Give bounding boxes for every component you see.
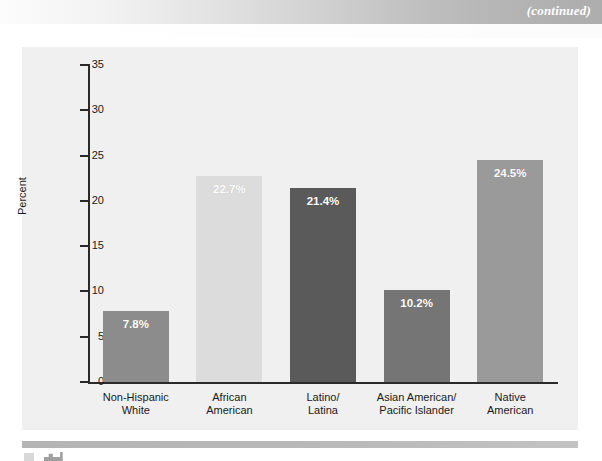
category-label: NativeAmerican — [463, 391, 557, 417]
continued-note: (continued) — [527, 3, 591, 19]
category-label: AfricanAmerican — [183, 391, 277, 417]
bar[interactable]: 22.7% — [196, 176, 262, 382]
bar[interactable]: 10.2% — [384, 290, 450, 382]
bar-value-label: 7.8% — [103, 318, 169, 330]
category-label-line: African — [183, 391, 277, 404]
category-label: Asian American/Pacific Islander — [370, 391, 464, 417]
bar[interactable]: 21.4% — [290, 188, 356, 382]
category-label-line: Latina — [276, 404, 370, 417]
category-label-line: Latino/ — [276, 391, 370, 404]
category-label-line: Non-Hispanic — [89, 391, 183, 404]
plot-area: 7.8%22.7%21.4%10.2%24.5% — [89, 65, 557, 382]
bar-value-label: 22.7% — [196, 183, 262, 195]
footer-partial-glyph-icon — [44, 452, 70, 461]
page-header-band — [0, 0, 602, 24]
category-label-line: White — [89, 404, 183, 417]
category-label-line: American — [183, 404, 277, 417]
bar-value-label: 21.4% — [290, 195, 356, 207]
category-label: Non-HispanicWhite — [89, 391, 183, 417]
header-underlay — [0, 24, 602, 38]
category-label: Latino/Latina — [276, 391, 370, 417]
footer-marker-icon — [24, 453, 34, 461]
footer-divider-band — [22, 441, 578, 448]
bar-value-label: 24.5% — [477, 167, 543, 179]
bar[interactable]: 7.8% — [103, 311, 169, 382]
x-axis-line — [88, 382, 558, 384]
category-label-line: Pacific Islander — [370, 404, 464, 417]
category-label-line: American — [463, 404, 557, 417]
y-axis-title: Percent — [16, 177, 28, 215]
category-label-line: Native — [463, 391, 557, 404]
figure-panel: Percent 35302520151050 7.8%22.7%21.4%10.… — [22, 47, 578, 430]
bar[interactable]: 24.5% — [477, 160, 543, 382]
bar-value-label: 10.2% — [384, 297, 450, 309]
category-label-line: Asian American/ — [370, 391, 464, 404]
